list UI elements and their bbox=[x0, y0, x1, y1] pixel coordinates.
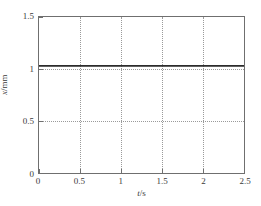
ytick-1point5 bbox=[39, 17, 43, 18]
yticklabel-3: 1.5 bbox=[23, 11, 34, 21]
ytick-0 bbox=[39, 173, 43, 174]
x-axis-label: t/s bbox=[38, 188, 245, 198]
y-axis-label: x/mm bbox=[0, 74, 9, 95]
xticklabel-0: 0 bbox=[36, 176, 41, 186]
xticklabel-4: 2 bbox=[201, 176, 206, 186]
xtick-1point5 bbox=[162, 169, 163, 173]
xtick-0point5 bbox=[80, 169, 81, 173]
ytick-0point5 bbox=[39, 121, 43, 122]
xticklabel-3: 1.5 bbox=[157, 176, 168, 186]
y-axis-label-unit: /mm bbox=[0, 74, 9, 91]
xtick-2 bbox=[203, 169, 204, 173]
ytick-1 bbox=[39, 69, 43, 70]
xticklabel-5: 2.5 bbox=[239, 176, 250, 186]
xtick-2point5 bbox=[244, 169, 245, 173]
xticklabel-1: 0.5 bbox=[74, 176, 85, 186]
plot-area bbox=[38, 16, 245, 174]
x-axis-label-unit: /s bbox=[140, 188, 146, 198]
series-x-line bbox=[39, 17, 244, 173]
y-axis-label-variable: x bbox=[0, 91, 9, 95]
yticklabel-0: 0 bbox=[30, 169, 35, 179]
yticklabel-1: 0.5 bbox=[23, 116, 34, 126]
chart-figure: 0 0.5 1 1.5 2 2.5 0 0.5 1 1.5 t/s x/mm bbox=[0, 0, 261, 206]
data-series-layer bbox=[39, 17, 244, 173]
xtick-1 bbox=[121, 169, 122, 173]
xticklabel-2: 1 bbox=[119, 176, 124, 186]
yticklabel-2: 1 bbox=[30, 64, 35, 74]
